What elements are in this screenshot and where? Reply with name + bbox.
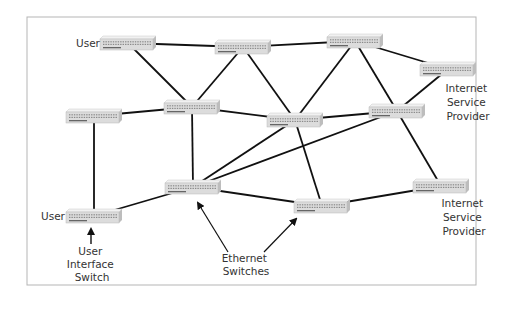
- ethernet-switch-icon: [267, 113, 323, 127]
- isp-top-line-2: Service: [447, 96, 486, 108]
- ethernet-switch-icon: [413, 179, 469, 193]
- ethernet-switch-icon: [294, 199, 350, 213]
- ethernet-switches-label: Ethernet Switches: [222, 252, 271, 277]
- isp-top-line-1: Internet: [445, 82, 487, 94]
- uis-line-1: User: [78, 245, 103, 257]
- isp-top-line-3: Provider: [446, 110, 490, 122]
- user-label-top: User: [76, 37, 101, 49]
- ethernet-switch-icon: [100, 36, 156, 50]
- user-label-bottom: User: [41, 210, 66, 222]
- isp-bottom-line-2: Service: [443, 211, 482, 223]
- isp-bottom-line-3: Provider: [442, 225, 486, 237]
- isp-label-bottom: Internet Service Provider: [441, 197, 486, 237]
- ethernet-switch-icon: [215, 40, 271, 54]
- ethernet-switch-icon: [165, 180, 221, 194]
- es-line-2: Switches: [223, 265, 270, 277]
- network-diagram: User User Internet Service Provider Inte…: [0, 0, 518, 311]
- ethernet-switch-icon: [164, 100, 220, 114]
- isp-bottom-line-1: Internet: [441, 197, 483, 209]
- ethernet-switch-icon: [66, 109, 122, 123]
- es-line-1: Ethernet: [222, 252, 267, 264]
- uis-line-3: Switch: [75, 271, 110, 283]
- ethernet-switch-icon: [327, 34, 383, 48]
- uis-line-2: Interface: [67, 258, 114, 270]
- link-s6-s9: [192, 107, 193, 187]
- ethernet-switch-icon: [369, 104, 425, 118]
- isp-label-top: Internet Service Provider: [445, 82, 490, 122]
- ethernet-switch-icon: [420, 62, 476, 76]
- ethernet-switch-icon: [66, 209, 122, 223]
